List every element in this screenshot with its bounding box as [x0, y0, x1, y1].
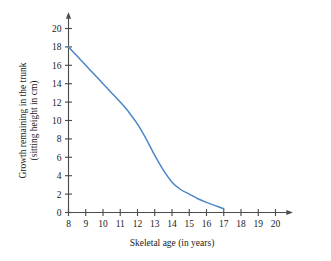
x-tick-label: 8	[66, 219, 71, 229]
y-tick-label: 12	[52, 98, 62, 108]
x-tick-label: 9	[83, 219, 88, 229]
x-axis-title: Skeletal age (in years)	[130, 238, 215, 249]
y-axis-title-line1: Growth remaining in the trunk	[18, 62, 28, 178]
y-tick-label: 0	[57, 208, 62, 218]
y-tick-label: 8	[57, 134, 62, 144]
y-tick-label: 10	[52, 116, 62, 126]
x-tick-label: 18	[236, 219, 246, 229]
y-tick-label: 6	[57, 153, 62, 163]
y-tick-label: 16	[52, 61, 62, 71]
y-tick-label: 4	[57, 171, 62, 181]
x-tick-label: 19	[254, 219, 264, 229]
x-tick-label: 14	[167, 219, 177, 229]
y-tick-label: 14	[52, 79, 62, 89]
y-tick-label: 20	[52, 24, 62, 34]
x-tick-label: 20	[271, 219, 281, 229]
y-axis-title-line2: (sitting height in cm)	[29, 81, 40, 161]
y-tick-label: 2	[57, 190, 62, 200]
chart-background	[0, 0, 331, 261]
chart-figure: 02468101214161820 8910111213141516171819…	[0, 0, 331, 261]
x-tick-label: 12	[133, 219, 143, 229]
x-tick-label: 10	[98, 219, 108, 229]
x-tick-label: 13	[150, 219, 160, 229]
x-tick-label: 17	[219, 219, 229, 229]
x-tick-label: 15	[185, 219, 195, 229]
growth-remaining-line-chart: 02468101214161820 8910111213141516171819…	[0, 0, 331, 261]
x-tick-label: 16	[202, 219, 212, 229]
y-tick-label: 18	[52, 42, 62, 52]
x-tick-label: 11	[116, 219, 125, 229]
